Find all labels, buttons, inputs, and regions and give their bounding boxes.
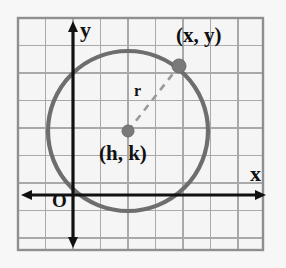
center-point-label: (h, k) <box>99 143 147 164</box>
circle-diagram-figure: (x, y) (h, k) r y x O <box>0 0 286 268</box>
origin-label: O <box>52 191 67 210</box>
x-axis-label: x <box>250 163 261 185</box>
center-point-dot <box>122 125 134 137</box>
point-on-circle-label: (x, y) <box>176 25 222 46</box>
y-axis-label: y <box>80 19 91 41</box>
circle-point-dot <box>172 59 186 73</box>
radius-label: r <box>134 83 141 99</box>
coordinate-plane-svg <box>0 0 286 268</box>
